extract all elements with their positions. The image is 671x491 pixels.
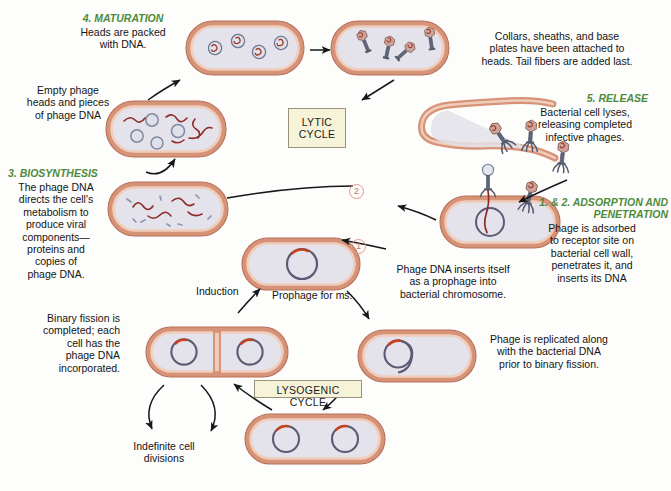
replication-text: Phage is replicated along with the bacte… xyxy=(466,333,632,370)
lytic-cycle-label: LYTIC CYCLE xyxy=(288,108,346,148)
cell-biosynthesis xyxy=(108,182,228,236)
insertion-text: Phage DNA inserts itself as a prophage i… xyxy=(374,263,532,300)
caption-band: FIGURE 10.15 Replication of a temperate … xyxy=(0,466,671,491)
cell-assembly xyxy=(331,21,449,75)
cell-maturation xyxy=(186,21,304,75)
adsorption-text: Phage is adsorbed to receptor site on ba… xyxy=(524,222,660,284)
arrow-adsorption-to-prophage-upper xyxy=(398,206,436,220)
empty-heads-text: Empty phage heads and pieces of phage DN… xyxy=(8,84,128,121)
arrow-lysogenic-marker-two-curve xyxy=(227,186,353,198)
binary-fission-text: Binary fission is completed; each cell h… xyxy=(10,312,120,374)
indefinite-divisions-text: Indefinite cell divisions xyxy=(112,440,216,465)
arrow-cycle-up xyxy=(288,210,322,232)
prophage-forms-text: Prophage for ms. xyxy=(272,289,382,301)
release-text: Bacterial cell lyses, releasing complete… xyxy=(512,106,658,143)
maturation-text: Heads are packed with DNA. xyxy=(52,26,194,51)
adsorption-heading: 1. & 2. ADSORPTION AND PENETRATION xyxy=(500,196,668,221)
induction-text: Induction xyxy=(196,285,256,297)
biosynthesis-text: The phage DNA directs the cell's metabol… xyxy=(4,181,108,280)
cell-replicating xyxy=(358,330,476,382)
phage-replication-figure: 4. MATURATION Heads are packed with DNA.… xyxy=(0,0,671,491)
arrow-fission-loop-left xyxy=(149,385,164,429)
cell-two-chromosomes xyxy=(245,414,385,464)
cell-prophage xyxy=(242,238,360,290)
cell-binary-fission xyxy=(146,327,288,377)
arrow-assembly-to-lysing xyxy=(362,80,394,100)
marker-two: 2 xyxy=(349,184,364,199)
release-heading: 5. RELEASE xyxy=(500,92,648,104)
arrow-emptyheads-to-maturation xyxy=(148,80,180,100)
maturation-heading: 4. MATURATION xyxy=(60,12,186,24)
marker-one: 1 xyxy=(351,239,366,254)
arrow-fission-loop-right xyxy=(201,385,215,431)
collars-text: Collars, sheaths, and base plates have b… xyxy=(452,30,662,67)
lysogenic-cycle-label: LYSOGENIC CYCLE xyxy=(254,380,362,398)
biosynthesis-heading: 3. BIOSYNTHESIS xyxy=(8,167,158,179)
